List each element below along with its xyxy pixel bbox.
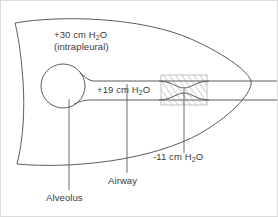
intrapleural-pressure-text: +30 cm H2O xyxy=(54,29,107,40)
airway-label: Airway xyxy=(108,175,137,187)
subscript-2: 2 xyxy=(192,156,196,163)
subscript-2: 2 xyxy=(96,34,100,41)
intrapleural-pressure-label: +30 cm H2O (intrapleural) xyxy=(54,29,109,52)
figure-container: +30 cm H2O (intrapleural) +19 cm H2O -11… xyxy=(0,0,278,217)
alveolar-pressure-label: +19 cm H2O xyxy=(97,84,150,96)
intrapleural-note: (intrapleural) xyxy=(54,41,109,53)
lung-diagram xyxy=(1,1,278,217)
alveolus-label: Alveolus xyxy=(46,192,83,204)
alveolus-circle xyxy=(41,64,85,108)
subscript-2: 2 xyxy=(139,89,143,96)
constriction-pressure-label: -11 cm H2O xyxy=(153,151,203,163)
